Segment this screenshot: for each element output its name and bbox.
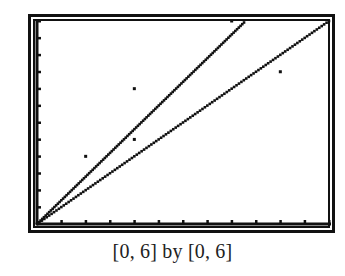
line-pixel — [277, 55, 280, 58]
line-pixel — [145, 147, 148, 150]
line-pixel — [199, 109, 202, 112]
line-pixel — [201, 108, 204, 111]
line-pixel — [62, 204, 65, 207]
line-pixel — [177, 125, 180, 128]
line-pixel — [121, 163, 124, 166]
x-tick — [109, 220, 112, 224]
line-pixel — [48, 214, 51, 217]
line-pixel — [325, 21, 328, 24]
line-pixel — [148, 145, 151, 148]
line-pixel — [323, 23, 326, 26]
line-pixel — [255, 70, 258, 73]
line-pixel — [101, 177, 104, 180]
line-pixel — [320, 25, 323, 28]
line-pixel — [194, 113, 197, 116]
line-pixel — [157, 138, 160, 141]
line-pixel — [123, 162, 126, 165]
line-pixel — [82, 191, 85, 194]
line-pixel — [311, 32, 314, 35]
line-pixel — [160, 136, 163, 139]
x-tick — [60, 220, 63, 224]
line-pixel — [179, 123, 182, 126]
line-pixel — [208, 103, 211, 106]
y-tick — [37, 71, 41, 74]
line-pixel — [80, 192, 83, 195]
line-pixel — [170, 130, 173, 133]
line-pixel — [296, 42, 299, 45]
line-pixel — [128, 158, 131, 161]
line-pixel — [213, 99, 216, 102]
line-pixel — [67, 201, 70, 204]
y-tick — [37, 172, 41, 175]
line-pixel — [221, 94, 224, 97]
line-pixel — [53, 211, 56, 214]
line-pixel — [196, 111, 199, 114]
line-pixel — [226, 91, 229, 94]
line-pixel — [299, 40, 302, 43]
line-pixel — [328, 20, 331, 23]
regression-lines — [36, 20, 331, 226]
x-tick — [279, 220, 282, 224]
line-pixel — [138, 152, 141, 155]
scatter-point — [279, 70, 282, 73]
line-pixel — [235, 84, 238, 87]
line-pixel — [43, 218, 46, 221]
line-pixel — [36, 223, 39, 226]
line-pixel — [303, 37, 306, 40]
line-pixel — [318, 26, 321, 29]
line-pixel — [84, 189, 87, 192]
line-pixel — [284, 50, 287, 53]
line-pixel — [250, 74, 253, 77]
line-pixel — [262, 65, 265, 68]
line-pixel — [104, 175, 107, 178]
line-pixel — [65, 202, 68, 205]
line-pixel — [301, 38, 304, 41]
line-pixel — [230, 87, 233, 90]
line-pixel — [281, 52, 284, 55]
line-pixel — [99, 179, 102, 182]
line-pixel — [206, 104, 209, 107]
y-tick — [37, 155, 41, 158]
line-pixel — [172, 128, 175, 131]
line-pixel — [89, 185, 92, 188]
scatter-point — [230, 20, 233, 23]
line-pixel — [72, 197, 75, 200]
line-pixel — [291, 45, 294, 48]
line-pixel — [131, 157, 134, 160]
line-pixel — [143, 148, 146, 151]
line-pixel — [264, 64, 267, 67]
line-pixel — [218, 96, 221, 99]
line-pixel — [55, 209, 58, 212]
y-tick — [37, 206, 41, 209]
line-pixel — [233, 86, 236, 89]
x-tick — [304, 220, 307, 224]
line-pixel — [187, 118, 190, 121]
line-pixel — [111, 170, 114, 173]
y-tick — [37, 20, 41, 23]
line-pixel — [150, 143, 153, 146]
line-pixel — [260, 67, 263, 70]
line-pixel — [106, 174, 109, 177]
line-pixel — [294, 43, 297, 46]
x-tick — [206, 220, 209, 224]
line-pixel — [286, 48, 289, 51]
line-pixel — [243, 79, 246, 82]
line-pixel — [140, 150, 143, 153]
line-pixel — [153, 142, 156, 145]
line-pixel — [274, 57, 277, 60]
line-pixel — [223, 92, 226, 95]
line-pixel — [126, 160, 129, 163]
x-tick — [85, 220, 88, 224]
line-pixel — [279, 54, 282, 57]
window-range-caption: [0, 6] by [0, 6] — [0, 240, 345, 263]
line-pixel — [306, 35, 309, 38]
line-pixel — [118, 165, 121, 168]
line-pixel — [116, 167, 119, 170]
line-pixel — [245, 77, 248, 80]
line-pixel — [211, 101, 214, 104]
line-pixel — [77, 194, 80, 197]
line-pixel — [60, 206, 63, 209]
line-pixel — [257, 69, 260, 72]
line-pixel — [289, 47, 292, 50]
line-pixel — [174, 126, 177, 129]
